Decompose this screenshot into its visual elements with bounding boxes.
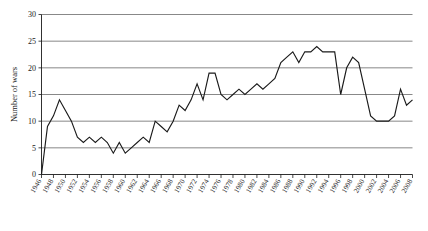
x-tick-label-1988: 1988	[280, 178, 294, 195]
x-tick-label-1994: 1994	[316, 178, 330, 195]
x-tick-label-1974: 1974	[197, 178, 211, 195]
x-tick-label-1956: 1956	[89, 178, 103, 195]
x-tick-label-1990: 1990	[292, 178, 306, 195]
x-tick-label-1946: 1946	[29, 178, 43, 195]
y-tick-label-30: 30	[28, 10, 36, 19]
x-tick-labels: 1946194819501952195419561958196019621964…	[29, 178, 414, 195]
x-tick-label-2000: 2000	[352, 178, 366, 195]
x-tick-label-2002: 2002	[364, 178, 378, 195]
y-tick-label-25: 25	[28, 37, 36, 46]
x-tick-label-2006: 2006	[388, 178, 402, 195]
x-tick-label-1982: 1982	[245, 178, 259, 195]
y-tick-label-20: 20	[28, 64, 36, 73]
x-tick-label-1996: 1996	[328, 178, 342, 195]
x-tick-label-1972: 1972	[185, 178, 199, 195]
y-tick-label-5: 5	[32, 144, 36, 153]
y-axis	[39, 15, 42, 175]
y-tick-labels: 051015202530	[28, 10, 36, 179]
y-tick-label-10: 10	[28, 117, 36, 126]
x-tick-label-1958: 1958	[101, 178, 115, 195]
series-number-of-wars	[42, 47, 413, 175]
x-tick-label-1970: 1970	[173, 178, 187, 195]
y-axis-label-text: Number of wars	[9, 67, 19, 122]
x-tick-label-1986: 1986	[268, 178, 282, 195]
line-chart: 051015202530 194619481950195219541956195…	[0, 0, 428, 231]
x-tick-label-1950: 1950	[53, 178, 67, 195]
y-axis-title: Number of wars	[9, 67, 19, 122]
x-tick-label-1966: 1966	[149, 178, 163, 195]
chart-container: 051015202530 194619481950195219541956195…	[0, 0, 428, 231]
x-tick-label-1976: 1976	[209, 178, 223, 195]
x-tick-label-1962: 1962	[125, 178, 139, 195]
x-tick-label-1952: 1952	[65, 178, 79, 195]
x-tick-label-1954: 1954	[77, 178, 91, 195]
gridlines	[42, 15, 413, 148]
x-tick-label-1984: 1984	[257, 178, 271, 195]
x-tick-label-1980: 1980	[233, 178, 247, 195]
x-tick-label-1998: 1998	[340, 178, 354, 195]
data-series-line	[42, 47, 413, 175]
x-tick-label-1960: 1960	[113, 178, 127, 195]
x-tick-label-2008: 2008	[400, 178, 414, 195]
x-tick-label-1964: 1964	[137, 178, 151, 195]
x-tick-label-2004: 2004	[376, 178, 390, 195]
y-tick-label-15: 15	[28, 90, 36, 99]
x-axis	[42, 175, 413, 179]
x-tick-label-1978: 1978	[221, 178, 235, 195]
x-tick-label-1948: 1948	[41, 178, 55, 195]
x-tick-label-1992: 1992	[304, 178, 318, 195]
x-tick-label-1968: 1968	[161, 178, 175, 195]
